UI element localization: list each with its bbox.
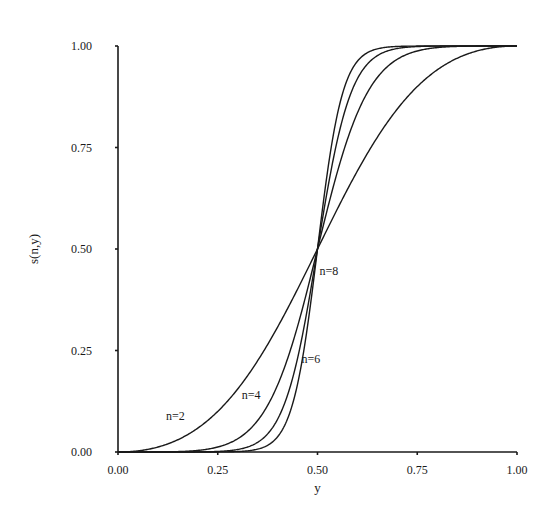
curve-label: n=6: [302, 352, 321, 366]
x-tick-label: 0.00: [108, 463, 129, 477]
x-tick-label: 0.50: [307, 463, 328, 477]
y-tick-label: 0.00: [71, 445, 92, 459]
curve-label: n=8: [319, 264, 338, 278]
x-tick-label: 0.25: [207, 463, 228, 477]
x-ticks: 0.000.250.500.751.00: [108, 452, 528, 477]
curves-group: [118, 46, 517, 452]
y-axis-label: s(n,y): [26, 234, 41, 264]
curve-label: n=4: [242, 388, 261, 402]
y-tick-label: 0.25: [71, 344, 92, 358]
chart: 0.000.250.500.751.00 0.000.250.500.751.0…: [0, 0, 555, 529]
y-tick-label: 1.00: [71, 39, 92, 53]
y-tick-label: 0.50: [71, 242, 92, 256]
x-tick-label: 0.75: [407, 463, 428, 477]
y-tick-label: 0.75: [71, 141, 92, 155]
curve-label: n=2: [166, 409, 185, 423]
curve-n8: [118, 46, 517, 452]
y-ticks: 0.000.250.500.751.00: [71, 39, 118, 459]
x-axis-label: y: [314, 480, 321, 495]
x-tick-label: 1.00: [507, 463, 528, 477]
